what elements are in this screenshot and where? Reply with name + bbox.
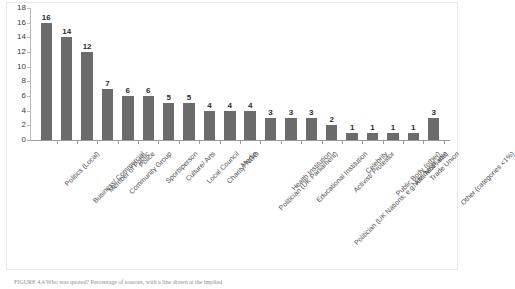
bar-value-label: 16 (42, 14, 51, 22)
bar-12[interactable]: 3 (285, 118, 296, 140)
bar-value-label: 2 (330, 116, 334, 124)
bar-rect (163, 103, 174, 140)
bar-15[interactable]: 1 (346, 133, 357, 140)
bar-value-label: 3 (268, 109, 272, 117)
bar-rect (122, 96, 133, 140)
figure-caption: FIGURE 4.4 Who was quoted? Percentage of… (14, 279, 454, 286)
y-tick-mark (27, 111, 31, 112)
bar-value-label: 4 (207, 102, 211, 110)
bar-value-label: 3 (289, 109, 293, 117)
y-tick-mark (27, 23, 31, 24)
bar-value-label: 1 (370, 124, 374, 132)
y-tick-label: 14 (17, 33, 26, 41)
x-tick-mark (383, 140, 384, 144)
y-tick-mark (27, 67, 31, 68)
x-tick-mark (301, 140, 302, 144)
x-tick-mark (281, 140, 282, 144)
y-tick-label: 16 (17, 19, 26, 27)
x-tick-mark (260, 140, 261, 144)
bar-17[interactable]: 1 (387, 133, 398, 140)
bar-rect (326, 125, 337, 140)
bar-1[interactable]: 14 (61, 37, 72, 140)
bar-19[interactable]: 3 (428, 118, 439, 140)
y-tick-label: 6 (22, 92, 26, 100)
y-tick-label: 10 (17, 63, 26, 71)
x-tick-mark (423, 140, 424, 144)
bar-rect (143, 96, 154, 140)
bar-16[interactable]: 1 (367, 133, 378, 140)
x-tick-mark (77, 140, 78, 144)
bar-11[interactable]: 3 (265, 118, 276, 140)
x-tick-mark (403, 140, 404, 144)
bar-rect (408, 133, 419, 140)
bar-value-label: 1 (391, 124, 395, 132)
y-tick-label: 0 (22, 136, 26, 144)
bar-rect (204, 111, 215, 140)
bar-value-label: 4 (228, 102, 232, 110)
x-axis-label-19: Other (categories <1%) (459, 150, 515, 206)
bar-4[interactable]: 6 (122, 96, 133, 140)
y-tick-mark (27, 52, 31, 53)
x-tick-mark (158, 140, 159, 144)
bar-rect (224, 111, 235, 140)
y-tick-mark (27, 140, 31, 141)
bar-rect (367, 133, 378, 140)
y-tick-label: 2 (22, 121, 26, 129)
x-tick-mark (444, 140, 445, 144)
bar-rect (387, 133, 398, 140)
y-tick-mark (27, 37, 31, 38)
bar-rect (102, 89, 113, 140)
x-axis-label-11: Health Institution (290, 150, 332, 192)
x-tick-mark (322, 140, 323, 144)
bar-3[interactable]: 7 (102, 89, 113, 140)
bar-0[interactable]: 16 (41, 23, 52, 140)
x-tick-mark (342, 140, 343, 144)
bar-8[interactable]: 4 (204, 111, 215, 140)
bar-rect (346, 133, 357, 140)
bar-value-label: 3 (309, 109, 313, 117)
bar-6[interactable]: 5 (163, 103, 174, 140)
bar-value-label: 5 (166, 94, 170, 102)
x-tick-mark (118, 140, 119, 144)
x-tick-mark (220, 140, 221, 144)
x-tick-mark (362, 140, 363, 144)
x-axis-label-0: Politics (Local) (64, 150, 101, 187)
bar-9[interactable]: 4 (224, 111, 235, 140)
x-tick-mark (179, 140, 180, 144)
bar-rect (41, 23, 52, 140)
bar-2[interactable]: 12 (81, 52, 92, 140)
bar-rect (81, 52, 92, 140)
x-tick-mark (240, 140, 241, 144)
x-tick-mark (138, 140, 139, 144)
bar-value-label: 1 (350, 124, 354, 132)
bar-value-label: 6 (126, 87, 130, 95)
bar-13[interactable]: 3 (306, 118, 317, 140)
x-tick-mark (97, 140, 98, 144)
y-tick-mark (27, 96, 31, 97)
bar-value-label: 4 (248, 102, 252, 110)
y-tick-label: 12 (17, 48, 26, 56)
bar-14[interactable]: 2 (326, 125, 337, 140)
bar-rect (183, 103, 194, 140)
bar-value-label: 1 (411, 124, 415, 132)
bar-value-label: 6 (146, 87, 150, 95)
bar-5[interactable]: 6 (143, 96, 154, 140)
bar-10[interactable]: 4 (244, 111, 255, 140)
y-tick-mark (27, 8, 31, 9)
y-tick-label: 4 (22, 107, 26, 115)
plot-area: 024681012141618 16141276655444333211113 … (30, 8, 450, 140)
bar-rect (61, 37, 72, 140)
x-tick-mark (57, 140, 58, 144)
bar-18[interactable]: 1 (408, 133, 419, 140)
y-tick-label: 18 (17, 4, 26, 12)
bar-rect (265, 118, 276, 140)
bar-rect (285, 118, 296, 140)
y-tick-label: 8 (22, 77, 26, 85)
y-axis-line (30, 8, 31, 140)
y-tick-mark (27, 81, 31, 82)
bar-7[interactable]: 5 (183, 103, 194, 140)
bar-value-label: 5 (187, 94, 191, 102)
bar-value-label: 12 (83, 43, 92, 51)
bar-value-label: 3 (431, 109, 435, 117)
